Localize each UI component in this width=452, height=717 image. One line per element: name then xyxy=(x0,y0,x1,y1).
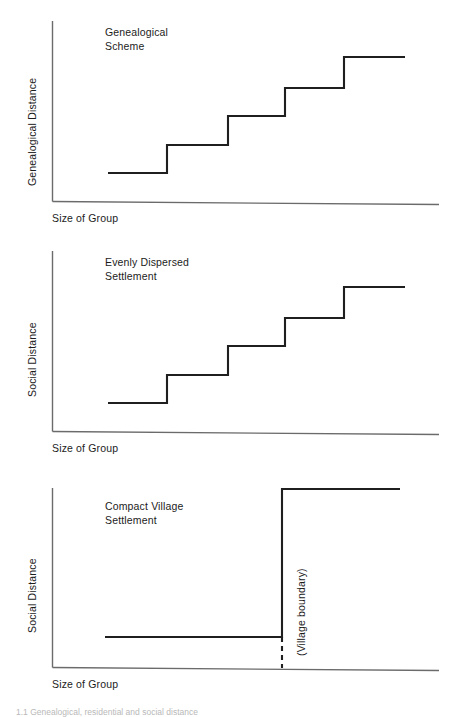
chart-panel-genealogical-scheme: Genealogical Scheme Genealogical Distanc… xyxy=(0,0,452,230)
figure-caption: 1.1 Genealogical, residential and social… xyxy=(16,707,436,717)
figure-genealogical-residential-social-distance: Genealogical Scheme Genealogical Distanc… xyxy=(0,0,452,717)
x-axis-line xyxy=(53,432,440,435)
y-axis-title-social-distance: Social Distance xyxy=(26,322,38,397)
plot-title-evenly-dispersed-settlement: Evenly Dispersed Settlement xyxy=(105,256,189,283)
x-axis-title-size-of-group: Size of Group xyxy=(52,678,118,690)
x-axis-line xyxy=(53,668,440,671)
step-line-genealogical xyxy=(108,57,405,173)
chart-panel-evenly-dispersed-settlement: Evenly Dispersed Settlement Social Dista… xyxy=(0,230,452,460)
plot-area-evenly-dispersed-settlement xyxy=(0,230,452,460)
y-axis-title-social-distance: Social Distance xyxy=(26,558,38,633)
plot-area-genealogical-scheme xyxy=(0,0,452,230)
annotation-village-boundary: (Village boundary) xyxy=(295,568,307,656)
plot-title-genealogical-scheme: Genealogical Scheme xyxy=(105,26,168,53)
chart-panel-compact-village-settlement: Compact Village Settlement (Village boun… xyxy=(0,460,452,717)
x-axis-title-size-of-group: Size of Group xyxy=(52,212,118,224)
x-axis-line xyxy=(53,202,440,205)
step-line-evenly-dispersed xyxy=(108,287,405,403)
y-axis-title-genealogical-distance: Genealogical Distance xyxy=(26,78,38,186)
plot-title-compact-village-settlement: Compact Village Settlement xyxy=(105,500,184,527)
x-axis-title-size-of-group: Size of Group xyxy=(52,442,118,454)
